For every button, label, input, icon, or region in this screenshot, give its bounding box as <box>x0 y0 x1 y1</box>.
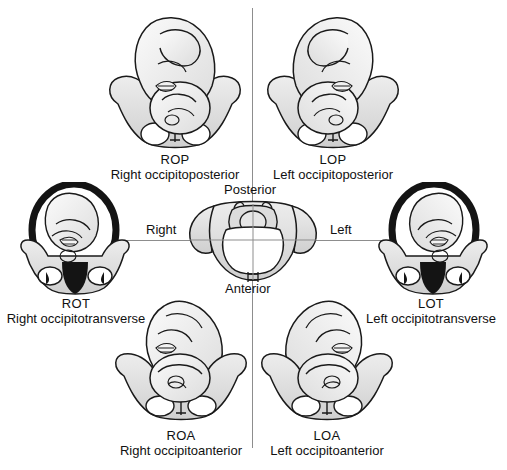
figure-rot <box>16 182 136 298</box>
figure-lot <box>372 182 492 298</box>
label-lop-abbr: LOP <box>258 152 408 167</box>
caption-roa: ROA Right occipitoanterior <box>108 428 254 459</box>
label-posterior: Posterior <box>224 182 276 197</box>
label-loa-abbr: LOA <box>254 428 400 443</box>
label-roa-full: Right occipitoanterior <box>108 443 254 458</box>
caption-rop: ROP Right occipitoposterior <box>100 152 250 183</box>
caption-lop: LOP Left occipitoposterior <box>258 152 408 183</box>
figure-lop <box>258 8 408 156</box>
label-left: Left <box>330 222 352 237</box>
figure-rop <box>100 8 250 156</box>
label-right: Right <box>146 222 176 237</box>
label-rop-full: Right occipitoposterior <box>100 167 250 182</box>
fetal-position-diagram: ROP Right occipitoposterior LOP <box>0 0 507 470</box>
label-loa-full: Left occipitoanterior <box>254 443 400 458</box>
label-lop-full: Left occipitoposterior <box>258 167 408 182</box>
label-rop-abbr: ROP <box>100 152 250 167</box>
caption-loa: LOA Left occipitoanterior <box>254 428 400 459</box>
figure-center-pelvis <box>186 196 320 284</box>
label-anterior: Anterior <box>225 281 271 296</box>
figure-loa <box>254 298 400 426</box>
figure-roa <box>108 298 254 426</box>
label-roa-abbr: ROA <box>108 428 254 443</box>
